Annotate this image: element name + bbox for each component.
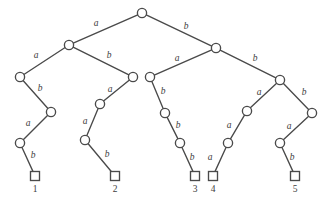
tree-internal-node [80,135,89,144]
edge-label: b [253,54,258,64]
edge-label: a [26,119,31,129]
edge-label: a [34,51,39,61]
leaf-number-label: 1 [33,185,38,195]
edge-label: b [107,51,112,61]
tree-edge [230,115,244,139]
leaf-number-label: 4 [211,185,216,195]
leaf-number-label: 5 [293,185,298,195]
tree-internal-node [15,72,24,81]
tree-internal-node [275,138,284,147]
edge-label: a [108,85,113,95]
tree-internal-node [15,138,24,147]
tree-edge [146,15,212,46]
tree-internal-node [128,72,137,81]
tree-nodes [15,8,316,180]
edge-label: a [208,153,213,163]
edge-label: a [287,122,292,132]
tree-edge [24,48,65,75]
tree-internal-node [223,138,232,147]
tree-internal-node [307,108,316,117]
tree-leaf-node [111,172,120,181]
tree-leaf-node [209,172,218,181]
tree-edge [23,80,48,108]
tree-leaf-node [291,172,300,181]
tree-internal-node [95,99,104,108]
leaf-number-label: 2 [113,185,118,195]
tree-internal-node [242,106,251,115]
edge-label: a [94,19,99,29]
tree-internal-node [64,40,73,49]
edge-label: b [190,153,195,163]
edge-label: b [38,84,43,94]
edge-label: b [161,87,166,97]
edge-label: b [184,22,189,32]
tree-edge [73,15,138,43]
binary-code-tree-figure: abababbababaabaabbbab 12345 [0,0,331,205]
tree-edge [73,47,129,75]
edge-label: a [83,117,88,127]
leaf-number-label: 3 [193,185,198,195]
tree-internal-node [275,75,284,84]
tree-edge [154,50,212,75]
tree-internal-node [137,8,146,17]
tree-leaf-node [31,172,40,181]
tree-edge [250,83,276,108]
edge-label: a [227,121,232,131]
edge-label: a [257,88,262,98]
tree-internal-node [46,107,55,116]
tree-internal-node [175,138,184,147]
tree-edge [87,108,98,136]
tree-edge [220,50,276,78]
tree-edge [215,147,226,172]
tree-canvas [0,0,331,205]
tree-internal-node [211,43,220,52]
edge-label: b [105,150,110,160]
edge-label: b [302,88,307,98]
tree-internal-node [145,72,154,81]
edge-label: b [290,153,295,163]
edge-label: b [176,121,181,131]
tree-leaf-node [191,172,200,181]
edge-label: b [31,151,36,161]
tree-internal-node [160,108,169,117]
edge-label: a [175,54,180,64]
